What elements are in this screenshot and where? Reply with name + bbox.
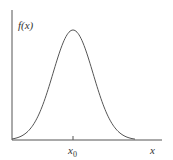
gaussian-curve — [12, 30, 135, 139]
x0-tick-label: x0 — [68, 145, 77, 159]
tick-sub: 0 — [73, 150, 77, 159]
x-axis-label: x — [150, 145, 155, 156]
y-axis-label: f(x) — [18, 20, 33, 31]
